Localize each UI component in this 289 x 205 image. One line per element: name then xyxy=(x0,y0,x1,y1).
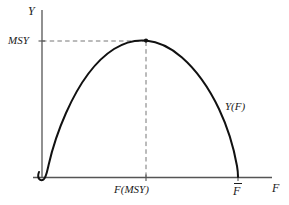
msy-label: MSY xyxy=(8,35,29,46)
curve-label: Y(F) xyxy=(225,101,245,112)
x-axis-label: F xyxy=(272,182,279,194)
yield-curve-figure: Y MSY F(MSY) F F Y(F) xyxy=(0,0,289,205)
y-axis-label: Y xyxy=(28,5,35,17)
fmsy-label: F(MSY) xyxy=(114,184,149,195)
fbar-letter: F xyxy=(233,184,240,198)
msy-peak-marker xyxy=(144,39,148,43)
plot-area xyxy=(0,0,289,205)
yield-curve xyxy=(38,40,238,180)
fbar-label: F xyxy=(233,183,242,197)
